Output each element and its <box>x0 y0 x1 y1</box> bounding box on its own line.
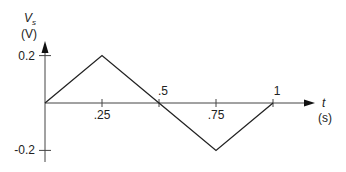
y-tick-label: 0.2 <box>18 49 35 63</box>
axes <box>42 41 316 162</box>
triangle-wave-chart: .25.5.7510.2-0.2 Vs (V) t (s) <box>0 0 346 172</box>
x-tick-label: .25 <box>94 108 111 122</box>
x-tick-label: .75 <box>208 108 225 122</box>
y-axis-arrow-icon <box>42 41 49 53</box>
y-axis-unit: (V) <box>21 27 37 41</box>
axis-labels: Vs (V) t (s) <box>21 11 332 125</box>
x-axis-unit: (s) <box>318 111 332 125</box>
y-tick-label: -0.2 <box>14 143 35 157</box>
x-axis-label: t <box>322 96 326 110</box>
x-axis-arrow-icon <box>304 100 315 107</box>
x-tick-label: .5 <box>158 84 168 98</box>
y-axis-label: Vs <box>24 11 36 27</box>
x-tick-label: 1 <box>274 84 281 98</box>
